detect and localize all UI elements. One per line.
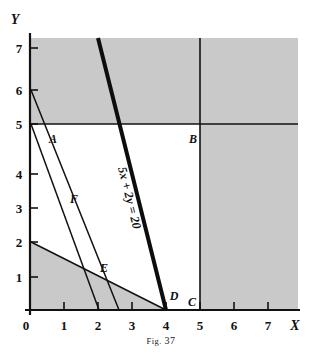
point-label-b: B bbox=[188, 132, 197, 146]
y-tick-label-5: 5 bbox=[16, 117, 23, 132]
plot-area: 0 1 2 3 4 5 6 7 1 2 3 4 5 6 7 X Y A B C … bbox=[0, 0, 322, 359]
x-axis-name: X bbox=[289, 318, 300, 333]
x-tick-label-4: 4 bbox=[163, 318, 170, 333]
point-label-d: D bbox=[169, 289, 179, 303]
figure-caption: Fig. 37 bbox=[0, 335, 322, 346]
figure-caption-number: 37 bbox=[165, 335, 176, 346]
point-label-a: A bbox=[48, 132, 57, 146]
y-tick-labels: 1 2 3 4 5 6 7 bbox=[16, 41, 23, 285]
figure-37: 0 1 2 3 4 5 6 7 1 2 3 4 5 6 7 X Y A B C … bbox=[0, 0, 322, 359]
point-label-c: C bbox=[188, 295, 197, 309]
y-tick-label-3: 3 bbox=[16, 201, 23, 216]
x-tick-label-5: 5 bbox=[197, 318, 204, 333]
shade-above-y5 bbox=[30, 38, 298, 124]
y-tick-label-7: 7 bbox=[16, 41, 23, 56]
y-axis-name: Y bbox=[11, 12, 21, 27]
shade-right-x5 bbox=[200, 124, 298, 310]
x-tick-label-6: 6 bbox=[231, 318, 238, 333]
y-tick-label-2: 2 bbox=[16, 235, 23, 250]
shaded-regions bbox=[30, 38, 298, 310]
point-label-f: F bbox=[69, 192, 78, 206]
y-tick-label-1: 1 bbox=[16, 270, 23, 285]
y-tick-label-6: 6 bbox=[16, 83, 23, 98]
figure-caption-prefix: Fig. bbox=[147, 336, 162, 346]
x-tick-label-7: 7 bbox=[265, 318, 272, 333]
shade-lower-left bbox=[30, 124, 166, 310]
x-tick-label-1: 1 bbox=[61, 318, 68, 333]
x-tick-label-0: 0 bbox=[23, 318, 30, 333]
point-label-e: E bbox=[99, 261, 108, 275]
y-tick-label-4: 4 bbox=[16, 167, 23, 182]
x-tick-label-3: 3 bbox=[129, 318, 136, 333]
x-tick-labels: 0 1 2 3 4 5 6 7 bbox=[23, 318, 272, 333]
x-tick-label-2: 2 bbox=[95, 318, 102, 333]
